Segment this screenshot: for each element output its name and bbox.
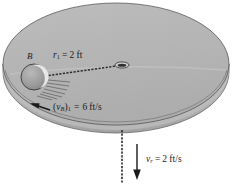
tangential-subscript-2: 1	[68, 105, 71, 112]
radial-velocity-label: vr=2ft/s	[146, 155, 182, 165]
tangential-value: 6	[83, 102, 88, 112]
radial-equals: =	[155, 154, 160, 164]
radius-value: 2	[70, 50, 75, 60]
physics-figure-rotating-disk: B r1=2ft (vB)1=6ft/s vr=2ft/s	[0, 0, 236, 184]
center-eyelet-hole	[115, 62, 129, 68]
radial-subscript: r	[150, 157, 153, 164]
tangential-units: ft/s	[89, 102, 102, 112]
radial-units: ft/s	[169, 154, 182, 164]
radial-velocity-arrow	[133, 144, 141, 180]
radial-value: 2	[162, 154, 167, 164]
radius-label: r1=2ft	[53, 51, 82, 61]
ball-label: B	[27, 52, 33, 61]
radius-units: ft	[76, 50, 82, 60]
radius-equals: =	[62, 50, 67, 60]
tangential-equals: =	[74, 102, 79, 112]
figure-canvas	[0, 0, 236, 184]
radius-subscript: 1	[57, 53, 60, 60]
ball-label-symbol: B	[27, 51, 33, 61]
tangential-velocity-label: (vB)1=6ft/s	[53, 103, 102, 113]
